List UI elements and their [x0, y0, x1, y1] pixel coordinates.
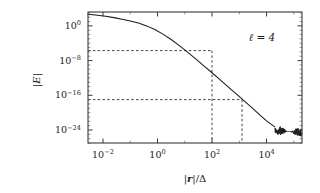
- y-tick-labels: 10010−810−1610−24: [55, 19, 81, 135]
- x-tick-label-0: 10−2: [92, 148, 114, 160]
- y-tick-label-0: 100: [65, 19, 81, 31]
- ell-annotation: ℓ = 4: [249, 31, 276, 43]
- log-log-error-plot: 10−2100102104 10010−810−1610−24 |r|/Δ |E…: [0, 0, 320, 193]
- y-tick-label-3: 10−24: [55, 124, 81, 136]
- x-tick-label-3: 104: [258, 148, 274, 160]
- y-axis-title: |E|: [31, 73, 43, 87]
- x-tick-labels: 10−2100102104: [92, 148, 275, 160]
- x-tick-label-2: 102: [204, 148, 220, 160]
- figure-panel: 10−2100102104 10010−810−1610−24 |r|/Δ |E…: [0, 0, 320, 193]
- y-tick-label-2: 10−16: [55, 89, 81, 101]
- y-tick-label-1: 10−8: [59, 54, 81, 66]
- x-tick-label-1: 100: [149, 148, 165, 160]
- x-axis-title: |r|/Δ: [184, 173, 207, 185]
